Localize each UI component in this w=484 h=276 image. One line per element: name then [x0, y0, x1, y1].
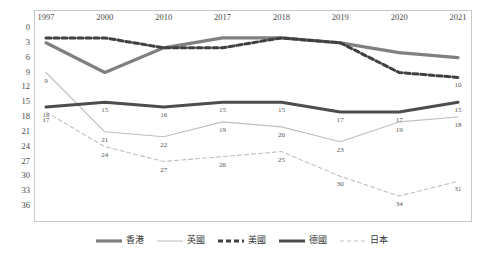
y-tick-label: 27 — [4, 156, 30, 166]
data-label: 15 — [455, 106, 462, 114]
legend-item-3[interactable]: 德國 — [279, 236, 327, 245]
data-label: 10 — [455, 81, 462, 89]
data-label: 15 — [278, 106, 285, 114]
chart-container: 19972000201020172018201920202021 0369121… — [0, 0, 484, 276]
legend-swatch-icon — [340, 237, 366, 245]
data-label: 22 — [160, 141, 167, 149]
data-label: 9 — [44, 77, 48, 85]
legend-swatch-icon — [218, 237, 244, 245]
legend-label: 美國 — [248, 236, 266, 245]
data-label: 24 — [101, 151, 108, 159]
legend-swatch-icon — [96, 237, 122, 245]
legend-swatch-icon — [279, 237, 305, 245]
y-tick-label: 12 — [4, 81, 30, 91]
data-label: 25 — [278, 156, 285, 164]
data-label: 19 — [396, 126, 403, 134]
data-label: 15 — [101, 106, 108, 114]
legend-item-4[interactable]: 日本 — [340, 236, 388, 245]
data-label: 18 — [455, 121, 462, 129]
y-tick-label: 6 — [4, 52, 30, 62]
data-label: 17 — [43, 116, 50, 124]
y-tick-label: 21 — [4, 126, 30, 136]
legend-item-0[interactable]: 香港 — [96, 236, 144, 245]
chart-legend: 香港英國美國德國日本 — [0, 236, 484, 245]
legend-label: 德國 — [309, 236, 327, 245]
data-label: 17 — [337, 116, 344, 124]
data-label: 23 — [337, 146, 344, 154]
data-label: 17 — [396, 116, 403, 124]
y-tick-label: 30 — [4, 170, 30, 180]
y-tick-label: 3 — [4, 37, 30, 47]
data-label: 31 — [455, 185, 462, 193]
data-label: 27 — [160, 166, 167, 174]
y-tick-label: 36 — [4, 200, 30, 210]
data-label: 30 — [337, 180, 344, 188]
line-chart-plot — [34, 10, 472, 222]
data-label: 34 — [396, 200, 403, 208]
data-label: 21 — [101, 136, 108, 144]
data-label: 26 — [219, 161, 226, 169]
legend-label: 香港 — [126, 236, 144, 245]
y-tick-label: 9 — [4, 67, 30, 77]
y-tick-label: 24 — [4, 141, 30, 151]
legend-item-2[interactable]: 美國 — [218, 236, 266, 245]
data-label: 20 — [278, 131, 285, 139]
legend-item-1[interactable]: 英國 — [157, 236, 205, 245]
legend-label: 日本 — [370, 236, 388, 245]
legend-label: 英國 — [187, 236, 205, 245]
data-label: 19 — [219, 126, 226, 134]
y-tick-label: 0 — [4, 22, 30, 32]
data-label: 15 — [219, 106, 226, 114]
y-tick-label: 33 — [4, 185, 30, 195]
data-label: 16 — [160, 111, 167, 119]
y-tick-label: 18 — [4, 111, 30, 121]
y-tick-label: 15 — [4, 96, 30, 106]
legend-swatch-icon — [157, 237, 183, 245]
